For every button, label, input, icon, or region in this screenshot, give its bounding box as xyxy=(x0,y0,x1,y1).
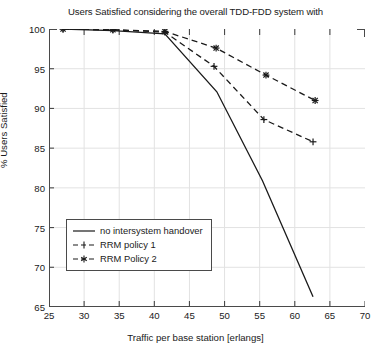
chart-title: Users Satisfied considering the overall … xyxy=(0,6,391,17)
x-tick-label: 40 xyxy=(134,310,174,321)
data-point-marker xyxy=(213,45,220,52)
y-tick-label: 75 xyxy=(1,222,45,233)
legend-item-rrm-policy-1: RRM policy 1 xyxy=(71,238,206,252)
x-tick-label: 45 xyxy=(169,310,209,321)
legend-item-rrm-policy-2: RRM Policy 2 xyxy=(71,252,206,266)
x-tick-label: 50 xyxy=(205,310,245,321)
data-point-marker xyxy=(312,97,319,104)
legend-label: RRM Policy 2 xyxy=(100,253,157,265)
legend-swatch-dashed-plus xyxy=(71,239,97,251)
y-tick-label: 100 xyxy=(1,24,45,35)
legend-label: no intersystem handover xyxy=(100,225,203,237)
data-point-marker xyxy=(310,138,317,145)
y-tick-label: 85 xyxy=(1,143,45,154)
x-tick-label: 30 xyxy=(64,310,104,321)
legend-item-no-intersystem-handover: no intersystem handover xyxy=(71,224,206,238)
data-point-marker xyxy=(60,29,67,32)
series-line-1 xyxy=(63,29,313,142)
y-tick-label: 95 xyxy=(1,63,45,74)
x-tick-label: 35 xyxy=(99,310,139,321)
x-axis-label: Traffic per base station [erlangs] xyxy=(0,332,391,343)
x-tick-label: 70 xyxy=(345,310,385,321)
x-tick-label: 25 xyxy=(29,310,69,321)
x-tick-label: 60 xyxy=(275,310,315,321)
legend-label: RRM policy 1 xyxy=(100,239,156,251)
y-tick-label: 80 xyxy=(1,182,45,193)
data-point-marker xyxy=(161,29,168,35)
chart-legend: no intersystem handover RRM policy 1 RRM… xyxy=(66,219,212,271)
x-tick-label: 65 xyxy=(310,310,350,321)
data-point-marker xyxy=(263,72,270,79)
chart-figure: Users Satisfied considering the overall … xyxy=(0,0,391,354)
x-tick-label: 55 xyxy=(240,310,280,321)
y-tick-label: 70 xyxy=(1,262,45,273)
y-tick-label: 90 xyxy=(1,103,45,114)
legend-swatch-dashed-star xyxy=(71,253,97,265)
legend-swatch-solid-line xyxy=(71,225,97,237)
